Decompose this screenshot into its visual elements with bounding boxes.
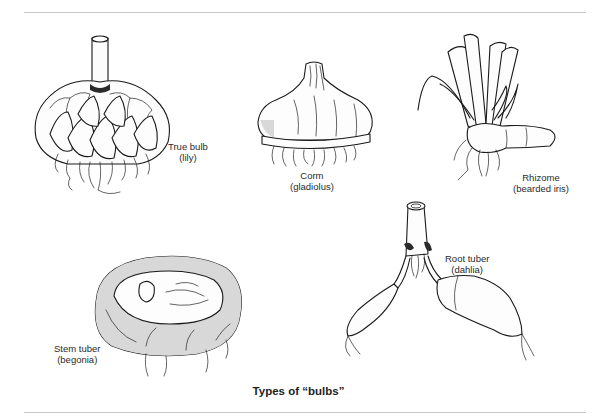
root-tuber-label: Root tuber (dahlia) [445, 253, 489, 275]
root-tuber-example: (dahlia) [445, 264, 489, 275]
top-divider-rule [24, 12, 586, 13]
root-tuber-illustration [334, 200, 544, 370]
corm-illustration [254, 60, 378, 170]
rhizome-label: Rhizome (bearded iris) [513, 172, 569, 194]
corm-example: (gladiolus) [290, 181, 334, 192]
stem-tuber-label: Stem tuber (begonia) [54, 343, 100, 365]
stem-tuber-example: (begonia) [54, 354, 100, 365]
rhizome-illustration [410, 30, 570, 180]
true-bulb-illustration [28, 38, 178, 198]
rhizome-example: (bearded iris) [513, 183, 569, 194]
stem-tuber-name: Stem tuber [54, 343, 100, 354]
stem-tuber-illustration [86, 250, 246, 380]
true-bulb-name: True bulb [168, 141, 208, 152]
bottom-divider-rule [24, 412, 586, 413]
figure-caption: Types of “bulbs” [0, 385, 597, 397]
true-bulb-example: (lily) [168, 152, 208, 163]
rhizome-name: Rhizome [513, 172, 569, 183]
corm-label: Corm (gladiolus) [290, 170, 334, 192]
root-tuber-name: Root tuber [445, 253, 489, 264]
corm-name: Corm [290, 170, 334, 181]
true-bulb-label: True bulb (lily) [168, 141, 208, 163]
